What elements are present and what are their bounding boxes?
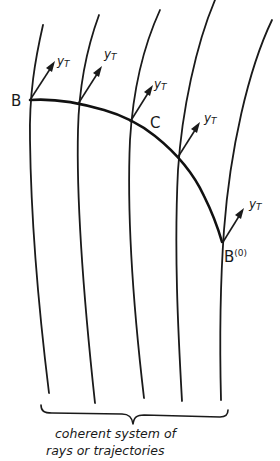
arrowhead-icon <box>144 85 153 96</box>
vector-label-5: yT <box>248 197 263 212</box>
point-label-C: C <box>150 114 160 132</box>
vector-label-4: yT <box>203 111 218 126</box>
vector-label-3: yT <box>153 77 168 92</box>
point-label-B: B <box>11 92 21 110</box>
ray-5 <box>220 20 272 400</box>
arrowhead-icon <box>235 208 244 219</box>
caption-line-1: coherent system of <box>55 426 178 441</box>
arrowhead-icon <box>191 122 200 133</box>
wavefront-curve <box>30 100 222 242</box>
point-label-B0: B(0) <box>224 248 247 266</box>
ray-4 <box>176 0 215 401</box>
wavefront-ray-diagram: yT yT yT yT yT B C B(0) coherent system … <box>0 0 280 461</box>
vector-label-1: yT <box>56 54 71 69</box>
ray-1 <box>30 25 49 393</box>
arrowhead-icon <box>46 61 55 72</box>
vector-label-2: yT <box>103 47 118 62</box>
caption-line-2: rays or trajectories <box>46 443 165 458</box>
ray-3 <box>129 10 160 398</box>
arrowhead-icon <box>93 66 102 77</box>
grouping-brace <box>41 405 228 424</box>
